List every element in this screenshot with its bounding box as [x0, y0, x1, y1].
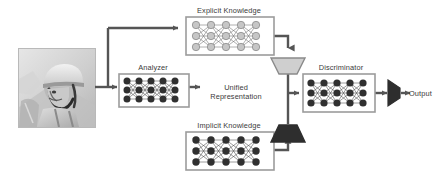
analyzer-node	[119, 74, 189, 107]
merge-top-trapezoid	[271, 58, 305, 74]
output-mux-node	[388, 80, 400, 106]
discriminator-node	[303, 74, 375, 112]
edge-explicit-to-merge-top	[274, 36, 288, 48]
merge-bottom-trapezoid	[271, 125, 305, 142]
diagram-graphics	[0, 0, 442, 185]
diagram-canvas: Explicit Knowledge Analyzer Implicit Kno…	[0, 0, 442, 185]
explicit-knowledge-node	[186, 17, 274, 55]
implicit-knowledge-node	[186, 132, 274, 170]
